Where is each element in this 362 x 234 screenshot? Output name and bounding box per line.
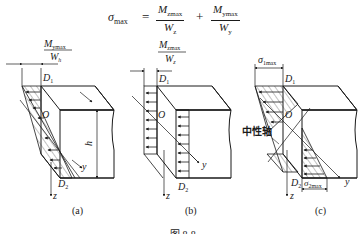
z-label-b: z <box>165 190 170 201</box>
z-label-c: z <box>289 190 294 201</box>
caption-b: (b) <box>185 205 197 217</box>
figure-caption: 图 8-8 <box>170 229 196 234</box>
caption-a: (a) <box>72 205 83 217</box>
caption-c: (c) <box>315 205 326 217</box>
y-label-c: y <box>344 176 350 187</box>
point-d1-a: D1 <box>42 72 53 84</box>
dim-label-b-denominator: Wz <box>165 53 176 65</box>
origin-o-b: O <box>158 109 165 120</box>
panel-c: σ1max σ2max 中性轴 D1 O D2 y z (c) <box>242 54 357 217</box>
dim-label-a-numerator: Mymax <box>43 38 66 50</box>
point-d1-b: D1 <box>158 73 169 85</box>
neutral-axis-b <box>132 96 198 162</box>
dim-label-b-numerator: Mzmax <box>158 39 180 51</box>
panel-b: Mzmax Wz D1 O D2 y z (b) <box>130 39 231 217</box>
stress-distribution-diagram: Mymax Wh h D1 O D2 y z (a) <box>0 0 362 234</box>
neutral-axis-label: 中性轴 <box>242 125 272 137</box>
point-d1-c: D1 <box>284 73 295 85</box>
z-label-a: z <box>52 190 57 201</box>
stress-arrows-b <box>146 93 189 171</box>
y-axis-a <box>72 160 82 168</box>
sigma-2max-label: σ2max <box>304 178 322 189</box>
point-d2-a: D2 <box>57 178 68 190</box>
y-label-b: y <box>201 159 207 170</box>
point-d2-b: D2 <box>177 181 188 193</box>
sigma-1max-label: σ1max <box>258 54 276 66</box>
neutral-axis-a <box>20 100 80 178</box>
origin-o-a: O <box>42 109 49 120</box>
panel-a: Mymax Wh h D1 O D2 y z (a) <box>6 38 114 217</box>
y-label-a: y <box>81 161 87 172</box>
origin-o-c: O <box>285 109 292 120</box>
y-axis-b <box>190 154 199 163</box>
dim-label-a-denominator: Wh <box>50 51 61 63</box>
dimension-c-top <box>255 64 283 86</box>
point-d2-c: D2 <box>290 177 301 189</box>
stress-wedge-c-bottom <box>302 128 327 178</box>
height-label-h: h <box>83 141 94 146</box>
